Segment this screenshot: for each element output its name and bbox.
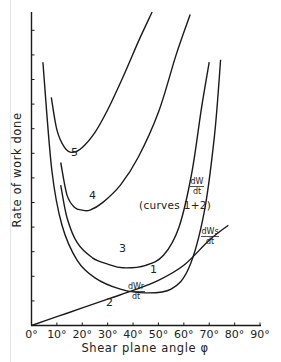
curve-1-label: 1	[150, 263, 157, 276]
dw-denominator: dt	[193, 187, 201, 196]
x-tick-label: 80°	[225, 328, 245, 341]
x-tick-label: 60°	[174, 328, 194, 341]
dwr-denominator: dt	[132, 292, 140, 301]
dws-numerator: dWs	[201, 227, 218, 236]
curve-3-label: 3	[119, 242, 126, 255]
x-tick-label: 90°	[250, 328, 270, 341]
dwr-numerator: dWr	[128, 282, 145, 291]
dw-dt-label: dW dt	[190, 177, 204, 196]
x-axis-title: Shear plane angle φ	[81, 341, 208, 355]
x-tick-label: 0°	[25, 328, 38, 341]
dws-dt-label: dWs dt	[201, 227, 219, 246]
curve-2	[32, 225, 229, 325]
axes: 0°10°20°30°40°50°60°70°80°90°	[25, 12, 270, 341]
x-tick-label: 40°	[123, 328, 143, 341]
dw-numerator: dW	[191, 177, 204, 186]
x-tick-label: 30°	[98, 328, 118, 341]
curves-1-plus-2-note: (curves 1+2)	[139, 199, 211, 211]
curves	[32, 12, 229, 326]
curve-3	[61, 62, 210, 268]
dwr-dt-label: dWr dt	[127, 282, 145, 301]
y-axis-title: Rate of work done	[10, 112, 24, 227]
x-tick-label: 10°	[47, 328, 67, 341]
x-tick-label: 20°	[73, 328, 93, 341]
x-tick-label: 70°	[199, 328, 219, 341]
x-tick-label: 50°	[149, 328, 169, 341]
curve-4	[61, 15, 191, 211]
curve-5-label: 5	[71, 146, 78, 159]
work-rate-chart: 0°10°20°30°40°50°60°70°80°90° Rate of wo…	[0, 0, 281, 362]
curve-2-label: 2	[106, 296, 113, 309]
curve-5	[51, 12, 152, 152]
curve-4-label: 4	[89, 189, 96, 202]
dws-denominator: dt	[206, 237, 214, 246]
